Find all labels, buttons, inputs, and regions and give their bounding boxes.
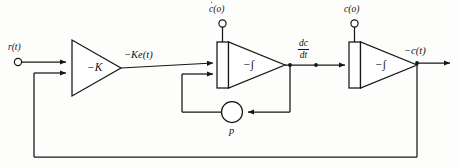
label-amplifier-output: −Ke(t) bbox=[124, 50, 153, 61]
c-dot-glyph: c(o) bbox=[209, 5, 224, 15]
gain-circle-p bbox=[222, 102, 243, 123]
derivative-denominator: dt bbox=[298, 51, 309, 61]
block-diagram-canvas: r(t) −K −Ke(t) c(o) −∫ dc dt c(o) −∫ −c(… bbox=[0, 0, 459, 168]
label-amplifier-gain: −K bbox=[87, 62, 102, 74]
label-output-signal: −c(t) bbox=[404, 46, 426, 57]
integrator2-ic-terminal bbox=[351, 20, 358, 27]
label-integrator2-initial-condition: c(o) bbox=[344, 5, 359, 15]
label-input-signal: r(t) bbox=[8, 43, 21, 53]
wire-amplifier-to-integrator1 bbox=[121, 63, 213, 68]
integrator1-triangle bbox=[229, 42, 286, 88]
integrator2-rect bbox=[349, 42, 361, 88]
derivative-numerator: dc bbox=[298, 39, 309, 49]
label-integrator2-operator: −∫ bbox=[375, 59, 386, 71]
junction-dot-derivative bbox=[314, 63, 318, 67]
label-integrator1-initial-condition: c(o) bbox=[209, 5, 224, 15]
label-feedback-gain: p bbox=[229, 126, 234, 137]
integrator1-ic-terminal bbox=[219, 20, 226, 27]
label-integrator1-operator: −∫ bbox=[243, 59, 254, 71]
junction-dot-output bbox=[415, 61, 419, 65]
dot-accent-icon bbox=[211, 2, 213, 4]
input-terminal-circle bbox=[14, 58, 21, 65]
integrator1-rect bbox=[217, 42, 229, 88]
label-integrator1-ic-text: c(o) bbox=[209, 4, 224, 14]
block-diagram-graphics bbox=[0, 0, 459, 168]
label-derivative-signal: dc dt bbox=[298, 39, 309, 61]
